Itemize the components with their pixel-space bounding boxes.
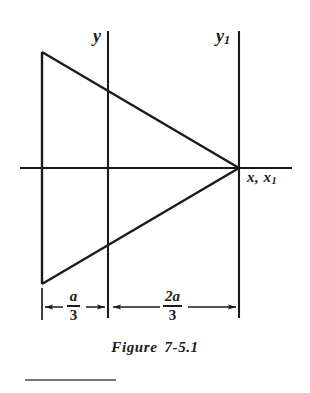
fraction-denominator: 3	[167, 307, 179, 323]
dimension-label-a-over-3: a 3	[67, 289, 80, 324]
y-axis-label: y	[93, 27, 101, 45]
x-axis-label: x, x1	[247, 170, 277, 186]
dimension-label-2a-over-3: 2a 3	[163, 289, 182, 324]
figure-container: y y1 x, x1 a 3 2a 3 Figure7-5.1	[0, 0, 310, 393]
fraction-numerator: 2a	[163, 289, 182, 305]
caption-prefix: Figure	[111, 339, 157, 355]
figure-caption: Figure7-5.1	[0, 339, 310, 356]
fraction-denominator: 3	[68, 307, 80, 323]
caption-number: 7-5.1	[164, 339, 198, 355]
triangle-lower-edge	[42, 168, 239, 284]
diagram-canvas	[0, 0, 310, 393]
fraction-numerator: a	[68, 289, 80, 305]
y1-axis-label: y1	[216, 27, 230, 46]
triangle-upper-edge	[42, 52, 239, 168]
